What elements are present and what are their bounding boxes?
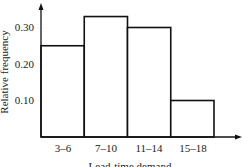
bars — [41, 17, 214, 137]
x-axis-label: Lead-time demand — [89, 160, 172, 167]
bar-15-18 — [171, 101, 214, 138]
histogram-chart: 0.30 0.20 0.10 Relative frequency 3–6 7–… — [0, 0, 243, 167]
y-axis-arrow-icon — [39, 3, 44, 10]
y-tick-0.10: 0.10 — [15, 94, 35, 106]
x-tick-3-6: 3–6 — [55, 142, 72, 154]
x-tick-7-10: 7–10 — [95, 142, 118, 154]
y-tick-0.20: 0.20 — [15, 58, 35, 70]
bar-7-10 — [84, 17, 127, 137]
y-axis-label: Relative frequency — [0, 30, 10, 114]
y-tick-0.30: 0.30 — [15, 21, 35, 33]
bar-11-14 — [128, 28, 171, 138]
x-axis-arrow-icon — [235, 135, 242, 140]
x-tick-15-18: 15–18 — [179, 142, 207, 154]
x-tick-11-14: 11–14 — [135, 142, 163, 154]
bar-3-6 — [41, 46, 84, 137]
